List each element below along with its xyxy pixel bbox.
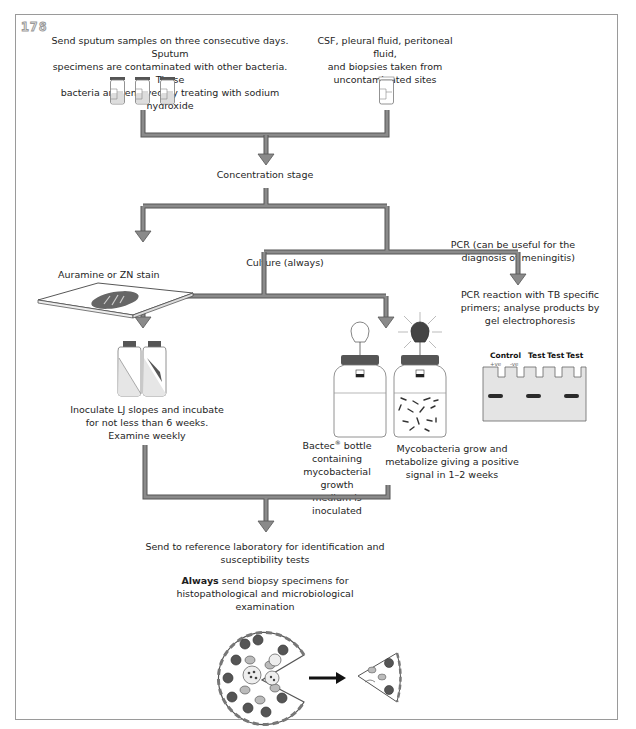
bactec-positive-bottle-icon — [394, 312, 446, 437]
gel-band-test-1 — [526, 394, 541, 398]
sputum-pot-icon — [110, 77, 175, 104]
gel-band-test-3 — [564, 394, 579, 398]
arrow-to-pcr-icon — [510, 274, 526, 285]
granuloma-icon — [218, 633, 304, 725]
electrophoresis-gel-icon — [483, 367, 586, 421]
lj-slope-bottle-icon — [118, 341, 141, 396]
arrow-to-lj-icon — [135, 317, 151, 328]
arrow-to-reference-icon — [258, 521, 274, 532]
granuloma-fragment-icon — [358, 653, 401, 702]
flowchart-graphics — [0, 0, 636, 729]
arrow-to-concentration-icon — [258, 154, 274, 165]
arrow-to-bactec-icon — [378, 317, 394, 328]
arrow-to-stain-icon — [135, 231, 151, 242]
arrow-right-icon — [309, 672, 346, 684]
bactec-bottle-icon — [334, 322, 386, 437]
lj-slope-colonies-bottle-icon — [143, 341, 166, 396]
gel-band-positive — [488, 394, 503, 398]
microscope-slide-icon — [38, 283, 193, 318]
sterile-pot-icon — [379, 77, 394, 104]
flow-connectors — [143, 110, 518, 522]
